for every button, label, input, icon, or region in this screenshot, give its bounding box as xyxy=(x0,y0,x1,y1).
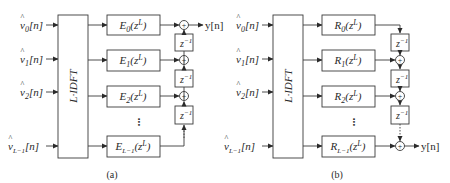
filter-bank-diagram: v0[n] ^ v1[n] ^ v2[n] ^ vL−1[n] ^ L·IDFT xyxy=(0,0,450,183)
filter-E2: E2(zL) xyxy=(107,86,160,107)
input-label-1: v1[n] ^ xyxy=(236,47,259,68)
panel-a: v0[n] ^ v1[n] ^ v2[n] ^ vL−1[n] ^ L·IDFT xyxy=(8,13,223,181)
svg-text:^: ^ xyxy=(237,47,241,56)
caption-a: (a) xyxy=(106,169,117,181)
output-label: y[n] xyxy=(421,140,439,152)
idft-label: L·IDFT xyxy=(67,68,79,103)
delay-1: z−1 xyxy=(391,70,409,87)
input-label-3: vL−1[n] ^ xyxy=(8,134,39,155)
input-label-0: v0[n] ^ xyxy=(236,13,259,34)
signal-line xyxy=(160,127,184,146)
sum-node-0: + xyxy=(180,21,189,31)
svg-text:^: ^ xyxy=(225,134,229,143)
ellipsis: ••• xyxy=(349,118,358,127)
svg-text:^: ^ xyxy=(237,13,241,22)
delay-0: z−1 xyxy=(391,34,409,51)
output-label: y[n] xyxy=(205,19,223,31)
filter-RL-1: RL−1(zL) xyxy=(322,136,375,157)
svg-text:+: + xyxy=(398,92,403,101)
svg-text:+: + xyxy=(398,142,403,151)
panel-b: v0[n] ^ v1[n] ^ v2[n] ^ vL−1[n] ^ L·IDFT… xyxy=(224,13,439,181)
sum-node-2: + xyxy=(396,92,405,102)
svg-text:^: ^ xyxy=(237,80,241,89)
ellipsis: ••• xyxy=(134,118,143,127)
svg-text:^: ^ xyxy=(9,134,13,143)
caption-b: (b) xyxy=(331,169,343,181)
svg-text:vL−1[n]: vL−1[n] xyxy=(224,140,255,155)
delay-2: z−1 xyxy=(391,106,409,124)
svg-text:^: ^ xyxy=(21,13,25,22)
filter-R2: R2(zL) xyxy=(322,86,375,107)
filter-R1: R1(zL) xyxy=(322,50,375,71)
filter-E0: E0(zL) xyxy=(107,15,160,35)
sum-node-3: + xyxy=(396,142,405,152)
input-label-0: v0[n] ^ xyxy=(20,13,43,34)
input-label-2: v2[n] ^ xyxy=(236,80,259,101)
svg-text:^: ^ xyxy=(21,80,25,89)
svg-text:+: + xyxy=(398,56,403,65)
input-label-3: vL−1[n] ^ xyxy=(224,134,255,155)
svg-text:+: + xyxy=(182,21,187,30)
delay-2: z−1 xyxy=(175,106,193,124)
svg-text:vL−1[n]: vL−1[n] xyxy=(8,140,39,155)
filter-EL-1: EL−1(zL) xyxy=(107,136,160,157)
input-label-2: v2[n] ^ xyxy=(20,80,43,101)
idft-label: L·IDFT xyxy=(282,68,294,103)
sum-node-1: + xyxy=(396,56,405,66)
delay-1: z−1 xyxy=(175,70,193,87)
filter-E1: E1(zL) xyxy=(107,50,160,71)
svg-text:^: ^ xyxy=(21,47,25,56)
delay-0: z−1 xyxy=(175,34,193,51)
input-label-1: v1[n] ^ xyxy=(20,47,43,68)
filter-R0: R0(zL) xyxy=(322,15,375,35)
